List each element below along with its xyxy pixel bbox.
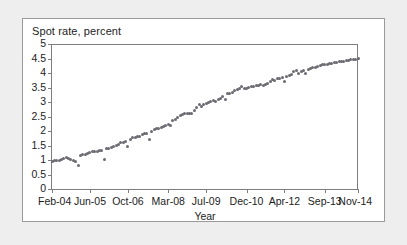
data-point bbox=[224, 98, 227, 101]
y-axis-tick-mark bbox=[48, 175, 52, 176]
x-axis-tick-mark bbox=[168, 189, 169, 193]
y-axis-tick-label: 0.5 bbox=[31, 168, 46, 180]
plot-right-border bbox=[357, 44, 358, 189]
y-axis-tick-label: 1 bbox=[40, 153, 46, 165]
data-point bbox=[117, 143, 120, 146]
y-axis-tick-mark bbox=[48, 146, 52, 147]
x-axis-tick-label: Sep-13 bbox=[308, 195, 342, 207]
y-axis-tick-mark bbox=[48, 73, 52, 74]
x-axis-tick-label: Apr-12 bbox=[269, 195, 301, 207]
data-point bbox=[193, 109, 196, 112]
data-point bbox=[148, 138, 151, 141]
x-axis-tick-mark bbox=[128, 189, 129, 193]
y-axis-tick-label: 2 bbox=[40, 124, 46, 136]
data-point bbox=[283, 80, 286, 83]
data-point bbox=[195, 106, 198, 109]
data-point bbox=[290, 73, 293, 76]
x-axis-tick-mark bbox=[284, 189, 285, 193]
x-axis-tick-label: Dec-10 bbox=[230, 195, 264, 207]
data-point bbox=[281, 76, 284, 79]
y-axis-tick-mark bbox=[48, 88, 52, 89]
x-axis-tick-mark bbox=[52, 189, 53, 193]
y-axis-tick-mark bbox=[48, 131, 52, 132]
y-axis-tick-label: 3.5 bbox=[31, 81, 46, 93]
data-point bbox=[77, 164, 80, 167]
data-point bbox=[145, 132, 148, 135]
data-point bbox=[190, 112, 193, 115]
data-point bbox=[74, 160, 77, 163]
y-axis-tick-label: 4 bbox=[40, 66, 46, 78]
y-axis-tick-mark bbox=[48, 117, 52, 118]
plot-area: 00.511.522.533.544.55 Feb-04Jun-05Oct-06… bbox=[51, 44, 358, 190]
data-point bbox=[304, 72, 307, 75]
x-axis-tick-mark bbox=[325, 189, 326, 193]
x-axis-tick-mark bbox=[358, 189, 359, 193]
y-axis-tick-label: 1.5 bbox=[31, 139, 46, 151]
data-point bbox=[124, 140, 127, 143]
x-axis-tick-label: Oct-06 bbox=[112, 195, 144, 207]
data-point bbox=[169, 124, 172, 127]
x-axis-tick-mark bbox=[206, 189, 207, 193]
y-axis-tick-label: 0 bbox=[40, 182, 46, 194]
y-axis-tick-mark bbox=[48, 59, 52, 60]
y-axis-tick-mark bbox=[48, 44, 52, 45]
data-point bbox=[100, 149, 103, 152]
x-axis-tick-mark bbox=[247, 189, 248, 193]
x-axis-title: Year bbox=[52, 210, 358, 222]
x-axis-tick-label: Jun-05 bbox=[74, 195, 106, 207]
data-point bbox=[176, 116, 179, 119]
y-axis-tick-label: 5 bbox=[40, 37, 46, 49]
plot-top-border bbox=[52, 44, 358, 45]
x-axis-tick-mark bbox=[90, 189, 91, 193]
figure-frame: Spot rate, percent 00.511.522.533.544.55… bbox=[22, 18, 385, 222]
x-axis-tick-label: Jul-09 bbox=[192, 195, 221, 207]
x-axis-tick-label: Nov-14 bbox=[338, 195, 372, 207]
y-axis-tick-mark bbox=[48, 102, 52, 103]
x-axis-tick-label: Feb-04 bbox=[38, 195, 71, 207]
y-axis-tick-label: 3 bbox=[40, 95, 46, 107]
y-axis-tick-label: 2.5 bbox=[31, 110, 46, 122]
data-point bbox=[126, 145, 129, 148]
chart-title: Spot rate, percent bbox=[32, 25, 121, 37]
y-axis-tick-label: 4.5 bbox=[31, 52, 46, 64]
data-point bbox=[103, 158, 106, 161]
x-axis-tick-label: Mar-08 bbox=[152, 195, 185, 207]
data-point bbox=[357, 57, 360, 60]
